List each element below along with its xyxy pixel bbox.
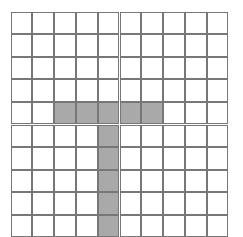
grid-cell <box>207 102 229 125</box>
grid-cell <box>54 170 76 193</box>
grid-cell <box>207 57 229 80</box>
grid-cell <box>141 34 163 57</box>
grid-cell <box>163 215 185 237</box>
grid-cell <box>98 79 120 102</box>
grid-cell <box>98 34 120 57</box>
grid-cell <box>207 147 229 170</box>
grid-cell-filled <box>98 102 120 125</box>
grid-cell <box>11 147 33 170</box>
grid-cell <box>54 12 76 35</box>
grid-cell <box>32 192 54 215</box>
grid-cell <box>76 57 98 80</box>
grid-cell <box>185 57 207 80</box>
grid-cell <box>141 79 163 102</box>
grid-cell <box>120 215 142 237</box>
grid-cell <box>11 170 33 193</box>
grid-cell-filled <box>54 102 76 125</box>
grid-cell <box>54 34 76 57</box>
grid-cell <box>141 215 163 237</box>
grid-cell <box>32 102 54 125</box>
grid-cell <box>120 57 142 80</box>
grid-cell <box>76 125 98 148</box>
grid-cell-filled <box>98 192 120 215</box>
grid-cell <box>185 34 207 57</box>
grid-cell <box>163 34 185 57</box>
grid-cell <box>54 192 76 215</box>
grid-cell <box>185 215 207 237</box>
grid-cell <box>120 125 142 148</box>
grid-cell <box>141 57 163 80</box>
grid-cell <box>76 147 98 170</box>
grid-cell <box>54 215 76 237</box>
grid-cell <box>76 215 98 237</box>
grid-cell <box>120 34 142 57</box>
grid-cell <box>32 125 54 148</box>
grid-cell <box>32 170 54 193</box>
grid-cell <box>141 125 163 148</box>
grid-cell <box>185 12 207 35</box>
grid-cell <box>163 102 185 125</box>
grid-cell <box>163 12 185 35</box>
grid-cell <box>32 147 54 170</box>
grid-cell <box>207 12 229 35</box>
grid-cell <box>32 34 54 57</box>
grid-cell <box>11 57 33 80</box>
grid-cell <box>76 192 98 215</box>
grid-cell <box>185 102 207 125</box>
grid-cell <box>98 57 120 80</box>
grid-cell <box>163 79 185 102</box>
grid-cell <box>54 57 76 80</box>
grid-cell <box>32 57 54 80</box>
grid-cell <box>120 147 142 170</box>
grid-cell <box>185 170 207 193</box>
grid-cell <box>11 34 33 57</box>
grid-cell <box>32 12 54 35</box>
grid-cell <box>141 147 163 170</box>
grid-cell-filled <box>76 102 98 125</box>
grid-cell <box>207 79 229 102</box>
grid-cell <box>98 12 120 35</box>
grid-cell <box>207 215 229 237</box>
grid-cell <box>163 192 185 215</box>
grid-cell <box>76 12 98 35</box>
grid-cell-filled <box>98 147 120 170</box>
grid-cell <box>185 192 207 215</box>
grid-cell <box>120 79 142 102</box>
grid-cell <box>54 79 76 102</box>
grid-cell <box>207 125 229 148</box>
grid-cell <box>54 125 76 148</box>
grid-cell <box>207 34 229 57</box>
grid-cell <box>11 102 33 125</box>
grid-cell <box>11 79 33 102</box>
grid-cell <box>32 79 54 102</box>
grid-cell <box>207 192 229 215</box>
grid-cell <box>76 34 98 57</box>
grid-cell-filled <box>120 102 142 125</box>
grid-cell <box>120 192 142 215</box>
grid-cell <box>76 170 98 193</box>
grid-cell <box>163 147 185 170</box>
grid-cell <box>185 147 207 170</box>
grid-cell <box>141 170 163 193</box>
grid-cell <box>11 192 33 215</box>
grid-cell <box>141 192 163 215</box>
grid-cell-filled <box>98 215 120 237</box>
grid-cell <box>11 12 33 35</box>
grid-cell <box>120 12 142 35</box>
grid-cell-filled <box>98 170 120 193</box>
grid-cell <box>120 170 142 193</box>
grid-cell <box>163 57 185 80</box>
grid-cell <box>185 79 207 102</box>
grid-cell <box>207 170 229 193</box>
grid-cell <box>163 170 185 193</box>
grid-cell <box>11 215 33 237</box>
grid-cell-filled <box>141 102 163 125</box>
grid-cell <box>76 79 98 102</box>
grid-cell <box>11 125 33 148</box>
grid-cell <box>54 147 76 170</box>
grid-cell <box>141 12 163 35</box>
grid-cell <box>32 215 54 237</box>
grid-cell <box>163 125 185 148</box>
grid-cell-filled <box>98 125 120 148</box>
grid-cell <box>185 125 207 148</box>
